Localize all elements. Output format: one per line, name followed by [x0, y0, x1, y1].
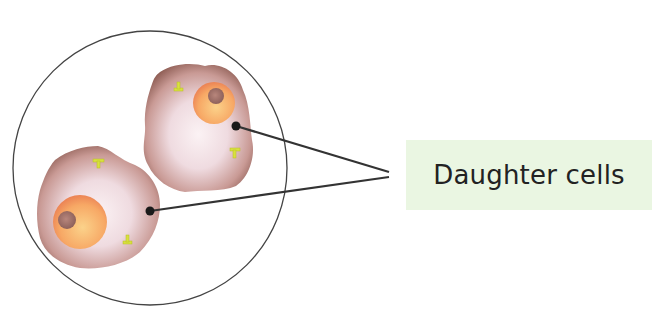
daughter-cells-label-box: Daughter cells [406, 140, 652, 210]
leader-line-upper [236, 126, 389, 172]
pointer-dot-upper [232, 122, 241, 131]
nucleolus [58, 211, 76, 229]
daughter-cells-label: Daughter cells [433, 160, 625, 190]
pointer-dot-lower [146, 207, 155, 216]
nucleolus [208, 88, 224, 104]
daughter-cell-lower-left [37, 146, 160, 268]
